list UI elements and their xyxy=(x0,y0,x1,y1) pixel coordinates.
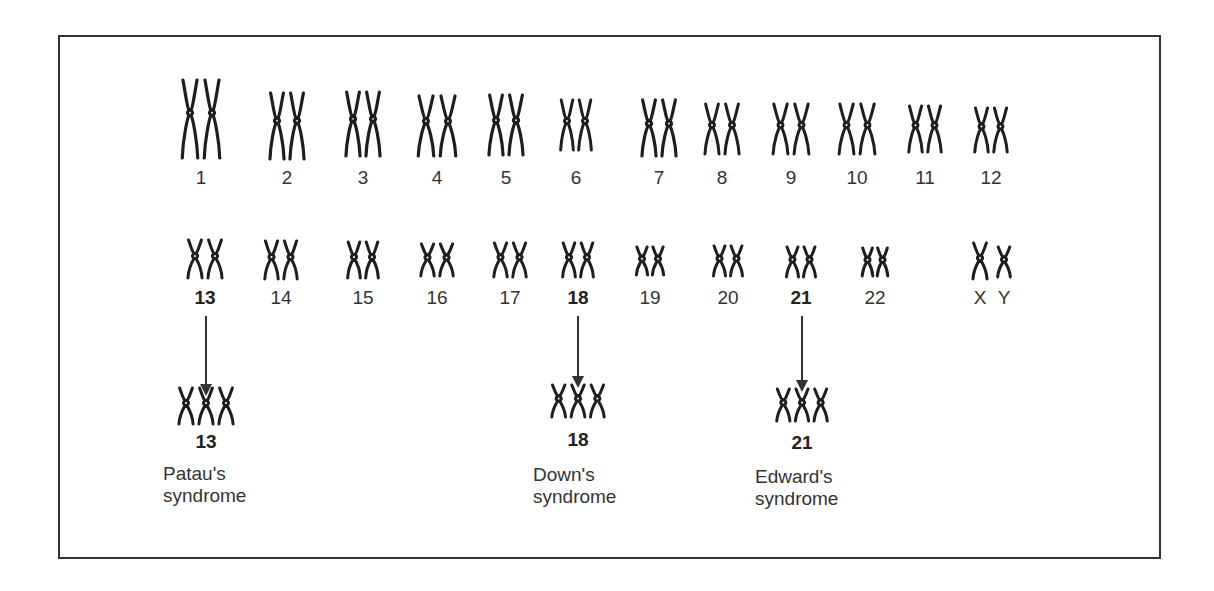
chromatid-shape xyxy=(725,104,739,154)
chromosome-label-5: 5 xyxy=(501,168,512,187)
syndrome-caption-line: syndrome xyxy=(163,485,246,507)
chromosome-pair-12 xyxy=(968,104,1014,156)
chromosome-pair-21 xyxy=(780,243,822,281)
chromosome-label-18: 18 xyxy=(567,288,588,307)
chromatid-shape xyxy=(795,389,808,421)
chromosome-pair-10 xyxy=(832,100,882,158)
chromosome-pair-8 xyxy=(698,100,746,158)
chromatid-shape xyxy=(188,240,202,278)
chromatid-shape xyxy=(839,104,854,154)
chromosome-pair-14 xyxy=(258,237,304,283)
chromatid-shape xyxy=(787,247,799,277)
chromosome-y xyxy=(991,243,1017,281)
chromosome-label-19: 19 xyxy=(639,288,660,307)
chromatid-shape xyxy=(204,80,219,158)
trisomy-label-18: 18 xyxy=(567,430,588,449)
chromosome-pair-3 xyxy=(339,88,387,160)
arrow-down-icon xyxy=(577,316,579,378)
syndrome-caption-line: Edward's xyxy=(755,466,838,488)
chromosome-label-y: Y xyxy=(998,288,1011,307)
chromatid-shape xyxy=(182,80,197,158)
chromatid-shape xyxy=(418,96,433,156)
chromatid-shape xyxy=(563,243,576,277)
chromatid-shape xyxy=(862,248,873,276)
chromatid-shape xyxy=(636,247,647,275)
syndrome-caption-line: Patau's xyxy=(163,463,246,485)
chromatid-shape xyxy=(489,95,503,155)
chromosome-label-x: X xyxy=(974,288,987,307)
chromosome-pair-6 xyxy=(554,96,598,154)
chromatid-shape xyxy=(998,247,1011,277)
chromosome-label-3: 3 xyxy=(358,168,369,187)
trisomy-21 xyxy=(770,385,834,425)
chromatid-shape xyxy=(265,241,278,279)
chromatid-shape xyxy=(284,241,297,279)
chromatid-shape xyxy=(270,93,284,159)
chromosome-pair-2 xyxy=(263,89,311,163)
trisomy-18 xyxy=(545,381,611,421)
chromatid-shape xyxy=(804,247,816,277)
chromatid-shape xyxy=(731,246,743,276)
chromatid-shape xyxy=(366,92,380,156)
chromatid-shape xyxy=(219,388,233,424)
chromatid-shape xyxy=(346,92,360,156)
chromatid-shape xyxy=(652,247,663,275)
chromatid-shape xyxy=(348,242,361,278)
chromosome-label-2: 2 xyxy=(282,168,293,187)
chromatid-shape xyxy=(794,104,809,154)
chromosome-pair-17 xyxy=(487,239,533,281)
chromosome-label-22: 22 xyxy=(864,288,885,307)
syndrome-caption-line: syndrome xyxy=(533,486,616,508)
chromatid-shape xyxy=(579,100,592,150)
syndrome-caption: Edward'ssyndrome xyxy=(755,466,838,510)
arrow-down-icon xyxy=(205,316,207,386)
chromatid-shape xyxy=(814,389,827,421)
chromosome-label-15: 15 xyxy=(352,288,373,307)
chromosome-pair-22 xyxy=(856,244,894,280)
chromatid-shape xyxy=(421,244,434,276)
chromatid-shape xyxy=(591,385,605,417)
chromatid-shape xyxy=(928,106,941,152)
chromatid-shape xyxy=(777,389,790,421)
chromatid-shape xyxy=(662,100,676,156)
chromosome-label-1: 1 xyxy=(196,168,207,187)
chromosome-label-16: 16 xyxy=(426,288,447,307)
chromosome-label-21: 21 xyxy=(790,288,811,307)
chromosome-label-4: 4 xyxy=(432,168,443,187)
chromatid-shape xyxy=(440,244,453,276)
chromatid-shape xyxy=(975,108,988,152)
trisomy-label-13: 13 xyxy=(195,432,216,451)
chromatid-shape xyxy=(199,388,213,424)
chromosome-pair-19 xyxy=(630,243,670,279)
chromatid-shape xyxy=(208,240,222,278)
chromatid-shape xyxy=(366,242,379,278)
chromosome-label-10: 10 xyxy=(846,168,867,187)
chromosome-label-12: 12 xyxy=(980,168,1001,187)
chromosome-pair-7 xyxy=(635,96,683,160)
chromatid-shape xyxy=(571,385,585,417)
chromatid-shape xyxy=(509,95,523,155)
chromatid-shape xyxy=(909,106,922,152)
chromosome-label-13: 13 xyxy=(194,288,215,307)
chromosome-pair-11 xyxy=(902,102,948,156)
chromosome-pair-16 xyxy=(414,240,460,280)
chromatid-shape xyxy=(860,104,875,154)
chromosome-pair-5 xyxy=(482,91,530,159)
chromosome-label-17: 17 xyxy=(499,288,520,307)
arrow-down-icon xyxy=(801,316,803,382)
chromosome-pair-1 xyxy=(175,76,227,162)
chromatid-shape xyxy=(179,388,193,424)
chromosome-x xyxy=(966,239,994,283)
chromatid-shape xyxy=(994,108,1007,152)
syndrome-caption: Down'ssyndrome xyxy=(533,464,616,508)
chromatid-shape xyxy=(877,248,888,276)
chromatid-shape xyxy=(642,100,656,156)
chromosome-pair-20 xyxy=(707,242,749,280)
chromosome-label-11: 11 xyxy=(915,168,935,187)
chromosome-pair-9 xyxy=(766,100,816,158)
trisomy-label-21: 21 xyxy=(791,433,812,452)
chromosome-label-7: 7 xyxy=(654,168,665,187)
chromatid-shape xyxy=(494,243,507,277)
chromatid-shape xyxy=(561,100,574,150)
syndrome-caption: Patau'ssyndrome xyxy=(163,463,246,507)
